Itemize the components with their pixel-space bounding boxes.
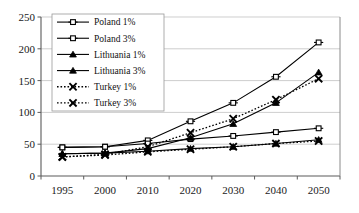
marker-open-square — [316, 126, 321, 131]
marker-open-square — [60, 145, 65, 150]
legend-label: Poland 3% — [94, 34, 136, 44]
legend-label: Turkey 1% — [94, 82, 136, 92]
legend-label: Lithuania 3% — [94, 66, 146, 76]
x-tick-label: 1995 — [51, 184, 74, 196]
legend: Poland 1%Poland 3%Lithuania 1%Lithuania … — [52, 14, 164, 111]
marker-open-square — [231, 134, 236, 139]
y-tick-label: 250 — [19, 11, 36, 23]
legend-label: Lithuania 1% — [94, 50, 146, 60]
marker-open-square — [274, 74, 279, 79]
x-tick-label: 2030 — [222, 184, 245, 196]
marker-open-square — [188, 119, 193, 124]
marker-open-square — [71, 36, 76, 41]
x-tick-label: 2000 — [94, 184, 117, 196]
y-tick-label: 150 — [19, 75, 36, 87]
marker-open-square — [103, 144, 108, 149]
marker-open-square — [316, 40, 321, 45]
y-tick-label: 200 — [19, 43, 36, 55]
marker-open-square — [71, 20, 76, 25]
x-axis: 1995200020102020203020402050 — [41, 176, 340, 196]
y-tick-label: 100 — [19, 106, 36, 118]
legend-label: Poland 1% — [94, 17, 136, 27]
legend-box — [52, 14, 164, 111]
y-axis: 050100150200250 — [19, 11, 42, 182]
marker-filled-triangle — [315, 69, 322, 75]
x-tick-label: 2050 — [308, 184, 331, 196]
x-tick-label: 2020 — [180, 184, 203, 196]
x-tick-label: 2040 — [265, 184, 288, 196]
legend-label: Turkey 3% — [94, 98, 136, 108]
y-tick-label: 0 — [30, 170, 36, 182]
line-chart: 0501001502002501995200020102020203020402… — [0, 0, 359, 213]
marker-open-square — [274, 130, 279, 135]
y-tick-label: 50 — [24, 138, 36, 150]
marker-open-square — [231, 100, 236, 105]
chart-canvas: 0501001502002501995200020102020203020402… — [0, 0, 359, 213]
x-tick-label: 2010 — [137, 184, 160, 196]
